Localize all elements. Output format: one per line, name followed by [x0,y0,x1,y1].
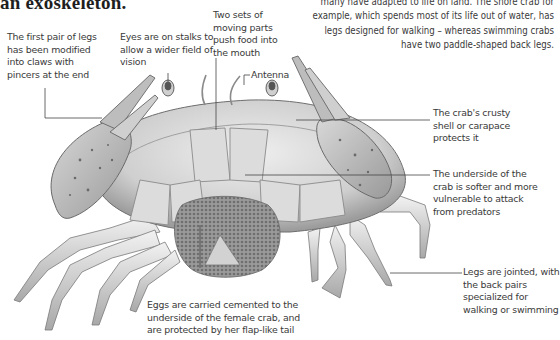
egg-mass [174,196,280,277]
label-claws: The first pair of legs has been modified… [7,31,107,81]
label-antenna: Antenna [251,69,289,82]
label-mouthparts: Two sets of moving parts push food into … [213,9,285,59]
label-carapace: The crab's crusty shell or carapace prot… [433,107,518,145]
label-legs: Legs are jointed, with the back pairs sp… [463,266,560,316]
label-eyes: Eyes are on stalks to allow a wider fiel… [120,31,215,69]
label-underside: The underside of the crab is softer and … [433,168,543,218]
eye-stalks [162,80,278,96]
label-eggs: Eggs are carried cemented to the undersi… [147,299,317,337]
